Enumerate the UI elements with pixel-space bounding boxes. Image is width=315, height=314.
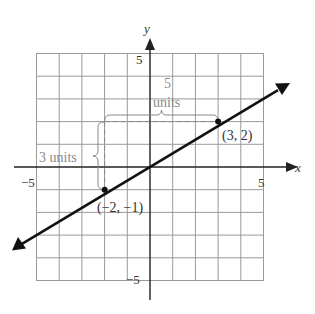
point-b-label: (3, 2) xyxy=(222,128,253,144)
coordinate-graph: y x 5 −5 −5 5 5 units 3 units (3, 2) (−2… xyxy=(0,0,315,314)
run-brace xyxy=(105,110,219,121)
y-axis-label: y xyxy=(142,21,150,36)
rise-brace xyxy=(93,122,104,190)
x-max-label: 5 xyxy=(258,175,265,190)
line-arrow-up-icon xyxy=(275,83,290,95)
x-axis-label: x xyxy=(294,160,301,175)
y-min-label: −5 xyxy=(126,272,140,287)
y-axis-arrow-icon xyxy=(145,38,155,50)
point-a-label: (−2, −1) xyxy=(97,200,143,216)
axes xyxy=(14,44,290,300)
point-a-marker xyxy=(102,187,108,193)
rise-label: 3 units xyxy=(39,150,77,165)
point-b-marker xyxy=(215,119,221,125)
run-number-label: 5 xyxy=(164,76,171,91)
x-min-label: −5 xyxy=(21,175,35,190)
y-max-label: 5 xyxy=(136,52,143,67)
run-units-label: units xyxy=(153,95,180,110)
